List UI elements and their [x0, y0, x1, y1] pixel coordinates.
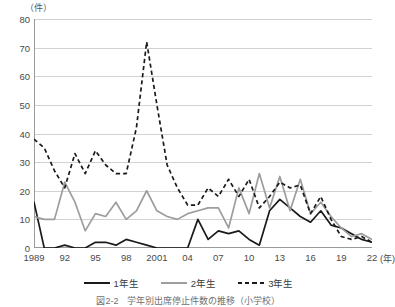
legend-label-1: 2年生: [191, 276, 216, 290]
x-tick-label-2010: 10: [244, 252, 255, 263]
x-tick-label-2016: 16: [305, 252, 316, 263]
legend: 1年生 2年生 3年生: [0, 276, 377, 290]
legend-item-1[interactable]: 2年生: [161, 276, 216, 290]
y-tick-label-20: 20: [19, 185, 30, 196]
x-tick-label-2007: 07: [213, 252, 224, 263]
x-tick-label-2013: 13: [275, 252, 286, 263]
x-tick-label-2022: 22: [367, 252, 378, 263]
x-tick-label-1989: 1989: [23, 252, 44, 263]
legend-swatch-line-icon-1: [161, 280, 187, 286]
x-axis-tick-labels: 1989929598200104071013161922(年): [0, 252, 377, 268]
x-tick-label-1992: 92: [59, 252, 70, 263]
y-tick-label-40: 40: [19, 128, 30, 139]
x-axis-unit-label: (年): [380, 252, 395, 265]
x-tick-label-1995: 95: [90, 252, 101, 263]
x-tick-label-2019: 19: [336, 252, 347, 263]
y-tick-label-80: 80: [19, 14, 30, 25]
y-tick-label-10: 10: [19, 214, 30, 225]
y-tick-label-60: 60: [19, 71, 30, 82]
series-line-1: [34, 199, 372, 248]
legend-label-0: 1年生: [114, 276, 139, 290]
y-tick-label-30: 30: [19, 157, 30, 168]
y-tick-label-70: 70: [19, 42, 30, 53]
figure-caption: 図2-2 学年別出席停止件数の推移（小学校）: [0, 294, 377, 307]
x-tick-label-2004: 04: [182, 252, 193, 263]
x-tick-label-2001: 2001: [146, 252, 167, 263]
legend-item-0[interactable]: 1年生: [84, 276, 139, 290]
legend-label-2: 3年生: [268, 276, 293, 290]
legend-item-2[interactable]: 3年生: [238, 276, 293, 290]
legend-swatch-line-icon-0: [84, 280, 110, 286]
y-tick-label-50: 50: [19, 99, 30, 110]
x-tick-label-1998: 98: [121, 252, 132, 263]
series-layer: [34, 19, 372, 248]
legend-swatch-line-icon-2: [238, 280, 264, 286]
